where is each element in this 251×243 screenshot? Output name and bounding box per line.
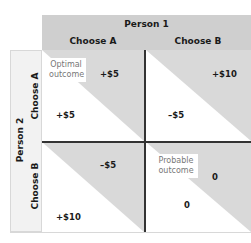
- person-1-label: Person 1: [42, 15, 251, 33]
- column-choose-a: Choose A: [42, 33, 144, 50]
- person1-payoff: +$5: [100, 69, 119, 79]
- person1-payoff: 0: [212, 172, 218, 182]
- cell-b-a: –$5 +$10: [42, 142, 144, 232]
- column-choose-b: Choose B: [145, 33, 251, 50]
- person-2-label: Person 2: [14, 110, 26, 170]
- row-choose-a: Choose A: [29, 66, 41, 126]
- diagonal-shading: [146, 50, 251, 141]
- person2-payoff: –$5: [168, 110, 184, 120]
- optimal-outcome-label: Optimal outcome: [46, 58, 86, 82]
- horizontal-divider: [42, 141, 251, 143]
- person2-payoff: +$5: [56, 110, 75, 120]
- cell-b-b: Probable outcome 0 0: [146, 142, 251, 232]
- row-choose-b: Choose B: [29, 156, 41, 216]
- cell-a-a: Optimal outcome +$5 +$5: [42, 50, 144, 141]
- person1-payoff: +$10: [212, 69, 237, 79]
- cell-a-b: +$10 –$5: [146, 50, 251, 141]
- person1-payoff: –$5: [100, 160, 116, 170]
- person2-payoff: +$10: [56, 212, 81, 222]
- probable-outcome-label: Probable outcome: [154, 154, 198, 178]
- bottom-border: [10, 232, 251, 233]
- person2-payoff: 0: [184, 200, 190, 210]
